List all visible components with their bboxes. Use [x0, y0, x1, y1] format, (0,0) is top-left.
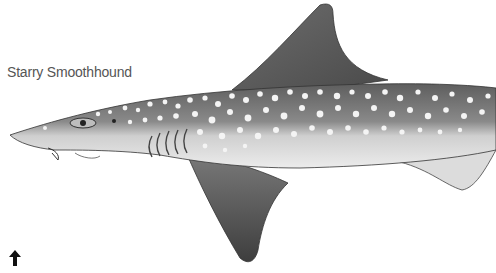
species-caption: Starry Smoothhound [7, 64, 132, 80]
pectoral-fin [186, 152, 288, 262]
illustration-panel: Starry Smoothhound [0, 0, 496, 273]
up-arrow-icon[interactable] [7, 249, 23, 267]
dorsal-fin [232, 4, 388, 90]
shark-illustration [0, 0, 496, 273]
